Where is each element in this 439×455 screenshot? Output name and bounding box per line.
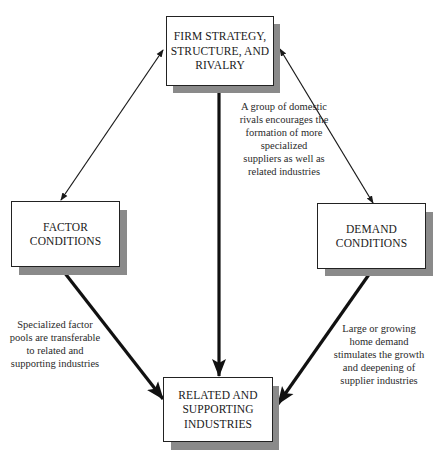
node-demand-conditions-label: DEMAND CONDITIONS	[336, 222, 407, 251]
node-related-supporting-label: RELATED AND SUPPORTING INDUSTRIES	[178, 388, 257, 432]
node-related-supporting: RELATED AND SUPPORTING INDUSTRIES	[163, 377, 273, 442]
note-firm-to-related: A group of domestic rivals encourages th…	[224, 100, 344, 178]
node-factor-conditions-label: FACTOR CONDITIONS	[30, 220, 101, 249]
node-demand-conditions: DEMAND CONDITIONS	[317, 203, 426, 269]
note-factor-to-related: Specialized factor pools are transferabl…	[3, 318, 107, 370]
node-factor-conditions: FACTOR CONDITIONS	[11, 201, 120, 267]
note-demand-to-related: Large or growing home demand stimulates …	[322, 322, 436, 387]
arrow-firm-factor	[61, 50, 163, 200]
node-firm-strategy: FIRM STRATEGY, STRUCTURE, AND RIVALRY	[166, 16, 274, 86]
node-firm-strategy-label: FIRM STRATEGY, STRUCTURE, AND RIVALRY	[171, 29, 270, 73]
